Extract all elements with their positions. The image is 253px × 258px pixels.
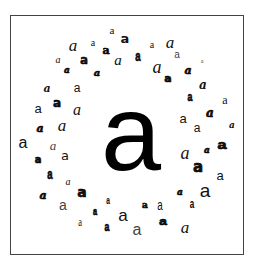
ring-letter-a: a [118, 207, 127, 224]
ring-letter-a: a [133, 222, 142, 238]
ring-letter-a: a [177, 188, 183, 197]
ring-letter-a: a [229, 121, 235, 130]
ring-letter-a: a [19, 135, 28, 151]
ring-letter-a: a [194, 122, 201, 134]
ring-letter-a: a [150, 40, 154, 50]
ring-letter-a: a [181, 144, 190, 162]
ring-letter-a: a [199, 79, 207, 91]
ring-letter-a: a [47, 168, 53, 182]
ring-letter-a: a [80, 53, 88, 66]
ring-letter-a: a [50, 139, 57, 152]
ring-letter-a: a [204, 146, 210, 155]
ring-letter-a: a [56, 55, 61, 65]
ring-letter-a: a [200, 181, 211, 200]
ring-letter-a: a [94, 68, 100, 78]
ring-letter-a: a [104, 221, 109, 234]
ring-letter-a: a [74, 82, 81, 94]
ring-letter-a: a [142, 201, 148, 210]
ring-letter-a: a [43, 83, 50, 94]
ring-letter-a: a [73, 102, 81, 118]
ring-letter-a: a [206, 107, 214, 119]
ring-letter-a: a [135, 50, 141, 64]
ring-letter-a: a [102, 45, 109, 56]
ring-letter-a: a [106, 197, 110, 207]
ring-letter-a: a [121, 32, 130, 45]
ring-letter-a: a [61, 149, 69, 162]
ring-letter-a: a [201, 58, 204, 64]
ring-letter-a: a [78, 216, 82, 228]
ring-letter-a: a [217, 139, 227, 152]
ring-letter-a: a [35, 155, 42, 165]
ring-letter-a: a [58, 117, 67, 134]
central-letter-a: a [101, 79, 161, 187]
ring-letter-a: a [34, 102, 41, 115]
ring-letter-a: a [66, 177, 71, 187]
ring-letter-a: a [216, 169, 223, 182]
ring-letter-a: a [193, 160, 203, 175]
ring-letter-a: a [93, 207, 98, 218]
ring-letter-a: a [153, 58, 162, 76]
ring-letter-a: a [59, 198, 67, 212]
ring-letter-a: a [174, 50, 180, 60]
ring-letter-a: a [110, 25, 115, 36]
ring-letter-a: a [53, 97, 61, 109]
ring-letter-a: a [157, 198, 162, 212]
ring-letter-a: a [64, 66, 70, 75]
ring-letter-a: a [114, 53, 122, 68]
ring-letter-a: a [222, 94, 227, 106]
ring-letter-a: a [184, 65, 191, 76]
ring-letter-a: a [181, 219, 190, 236]
ring-letter-a: a [77, 185, 86, 199]
ring-letter-a: a [159, 217, 168, 228]
ring-letter-a: a [166, 34, 175, 51]
ring-letter-a: a [36, 123, 43, 134]
ring-letter-a: a [39, 190, 46, 201]
ring-letter-a: a [179, 112, 186, 125]
ring-letter-a: a [189, 199, 194, 211]
ring-letter-a: a [187, 91, 192, 104]
ring-letter-a: a [91, 38, 95, 48]
ring-letter-a: a [69, 37, 78, 54]
ring-letter-a: a [164, 73, 171, 84]
